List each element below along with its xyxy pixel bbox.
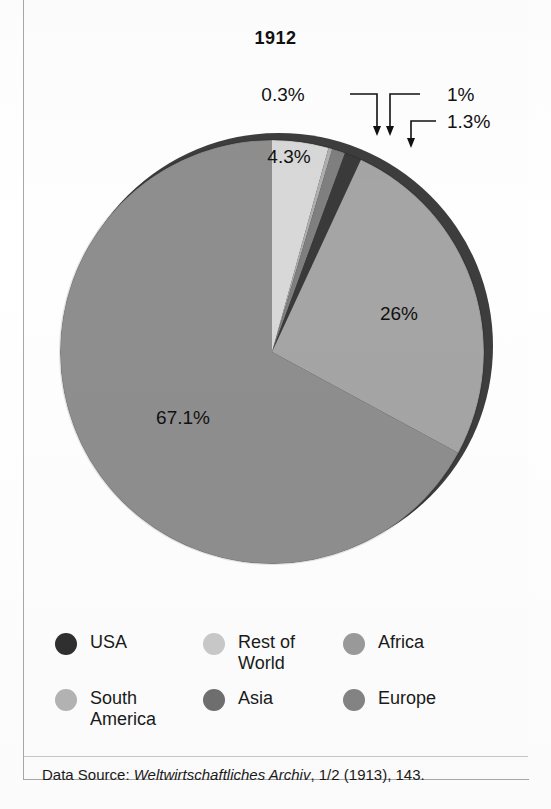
pie-chart-svg: 4.3% 26% 67.1% 0.3% 1% 1.3%: [0, 0, 551, 620]
callout-label-usa: 1.3%: [447, 111, 490, 132]
callout-group: [350, 94, 436, 148]
slice-label-africa: 26%: [380, 303, 418, 324]
source-divider: [24, 756, 528, 757]
callout-label-south-america: 0.3%: [261, 84, 304, 105]
legend-swatch-icon-rest-of-world: [203, 633, 225, 655]
legend-label-europe: Europe: [378, 688, 436, 709]
callout-line-asia: [390, 94, 420, 128]
legend-item-usa[interactable]: USA: [55, 632, 203, 674]
legend-label-africa: Africa: [378, 632, 424, 653]
callout-arrow-asia: [386, 126, 394, 136]
legend-label-asia: Asia: [238, 688, 273, 709]
legend-swatch-icon-usa: [55, 633, 77, 655]
slice-label-rest-of-world: 4.3%: [267, 146, 310, 167]
callout-label-asia: 1%: [447, 84, 475, 105]
pie-slices: [60, 140, 484, 564]
source-suffix: , 1/2 (1913), 143.: [310, 766, 424, 783]
slice-label-europe: 67.1%: [156, 407, 210, 428]
callout-arrow-usa: [407, 138, 415, 148]
legend-label-usa: USA: [90, 632, 127, 653]
callout-line-south-america: [350, 94, 377, 128]
legend-item-africa[interactable]: Africa: [343, 632, 493, 674]
source-publication: Weltwirtschaftliches Archiv: [134, 766, 311, 783]
legend-label-south-america: South America: [90, 688, 156, 730]
pie-chart: 4.3% 26% 67.1% 0.3% 1% 1.3%: [0, 0, 551, 620]
legend-item-europe[interactable]: Europe: [343, 688, 493, 730]
legend-item-south-america[interactable]: South America: [55, 688, 203, 730]
legend-swatch-icon-europe: [343, 689, 365, 711]
source-note: Data Source: Weltwirtschaftliches Archiv…: [42, 766, 512, 783]
legend-item-asia[interactable]: Asia: [203, 688, 343, 730]
legend-swatch-icon-asia: [203, 689, 225, 711]
legend-item-rest-of-world[interactable]: Rest of World: [203, 632, 343, 674]
callout-arrow-south-america: [373, 126, 381, 136]
callout-line-usa: [411, 121, 436, 140]
legend-swatch-icon-south-america: [55, 689, 77, 711]
legend: USA Rest of World Africa South America A…: [55, 632, 505, 730]
source-prefix: Data Source:: [42, 766, 134, 783]
legend-label-rest-of-world: Rest of World: [238, 632, 295, 674]
legend-swatch-icon-africa: [343, 633, 365, 655]
